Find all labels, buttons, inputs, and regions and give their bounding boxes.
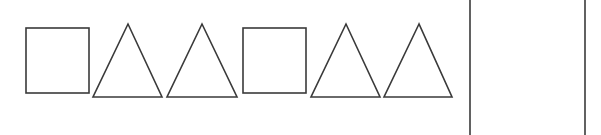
- triangle-shape-6: [384, 24, 452, 97]
- shape-sequence: [26, 24, 452, 97]
- triangle-shape-5: [311, 24, 380, 97]
- triangle-shape-2: [93, 24, 162, 97]
- answer-box: [470, 0, 585, 135]
- shape-sequence-diagram: [0, 0, 601, 135]
- triangle-shape-3: [167, 24, 237, 97]
- square-shape-1: [26, 28, 89, 93]
- square-shape-4: [243, 28, 306, 93]
